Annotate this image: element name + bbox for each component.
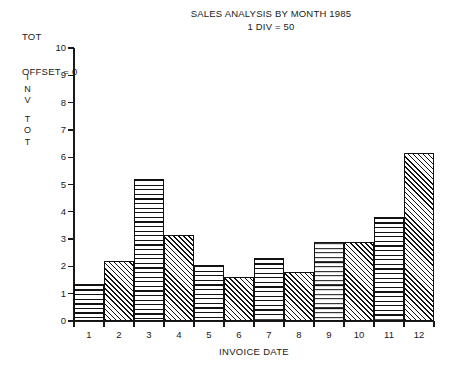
y-tick-label-7: 7 (44, 125, 66, 135)
bar-3 (134, 179, 164, 321)
chart-canvas: TOT OFFSET = 0 SALES ANALYSIS BY MONTH 1… (0, 0, 463, 366)
x-tick-10 (373, 321, 374, 327)
y-tick-label-0: 0 (44, 316, 66, 326)
bar-10 (344, 242, 374, 321)
bar-6 (224, 277, 254, 321)
x-tick-label-5: 5 (194, 330, 224, 340)
bar-4 (164, 235, 194, 321)
y-caption-gap (22, 107, 33, 114)
x-tick-label-8: 8 (284, 330, 314, 340)
chart-subtitle: 1 DIV = 50 (131, 21, 411, 34)
x-tick-0 (73, 321, 74, 327)
y-caption-char-2: V (22, 95, 33, 107)
x-tick-3 (163, 321, 164, 327)
y-caption-char-4: O (22, 125, 33, 137)
x-tick-5 (223, 321, 224, 327)
bar-8 (284, 272, 314, 321)
x-tick-label-2: 2 (104, 330, 134, 340)
header-line-tot: TOT (22, 31, 77, 43)
y-caption-char-5: T (22, 137, 33, 149)
x-tick-4 (193, 321, 194, 327)
y-caption-char-0: I (22, 72, 33, 84)
x-tick-label-3: 3 (134, 330, 164, 340)
x-tick-label-4: 4 (164, 330, 194, 340)
x-tick-1 (103, 321, 104, 327)
bar-11 (374, 217, 404, 321)
x-axis-title: INVOICE DATE (73, 346, 435, 357)
x-tick-label-9: 9 (314, 330, 344, 340)
bar-5 (194, 265, 224, 321)
x-tick-12 (433, 321, 434, 327)
bar-9 (314, 242, 344, 321)
y-tick-label-10: 10 (44, 43, 66, 53)
chart-title: SALES ANALYSIS BY MONTH 1985 (131, 8, 411, 21)
y-tick-label-1: 1 (44, 289, 66, 299)
y-tick-label-8: 8 (44, 98, 66, 108)
bar-series (74, 48, 435, 321)
bar-1 (74, 284, 104, 321)
x-tick-label-6: 6 (224, 330, 254, 340)
y-tick-label-6: 6 (44, 152, 66, 162)
x-tick-label-1: 1 (74, 330, 104, 340)
bar-7 (254, 258, 284, 321)
y-caption-char-3: T (22, 114, 33, 126)
y-axis-caption: I N V T O T (22, 72, 33, 149)
x-tick-label-12: 12 (404, 330, 434, 340)
y-tick-label-2: 2 (44, 261, 66, 271)
y-tick-label-4: 4 (44, 207, 66, 217)
y-tick-label-5: 5 (44, 180, 66, 190)
x-tick-9 (343, 321, 344, 327)
x-tick-11 (403, 321, 404, 327)
y-caption-char-1: N (22, 84, 33, 96)
y-tick-label-3: 3 (44, 234, 66, 244)
x-tick-2 (133, 321, 134, 327)
bar-12 (404, 153, 434, 321)
bar-2 (104, 261, 134, 321)
chart-title-block: SALES ANALYSIS BY MONTH 1985 1 DIV = 50 (131, 8, 411, 33)
x-tick-7 (283, 321, 284, 327)
x-tick-8 (313, 321, 314, 327)
y-tick-label-9: 9 (44, 70, 66, 80)
x-tick-label-7: 7 (254, 330, 284, 340)
x-tick-label-11: 11 (374, 330, 404, 340)
x-tick-label-10: 10 (344, 330, 374, 340)
x-tick-6 (253, 321, 254, 327)
